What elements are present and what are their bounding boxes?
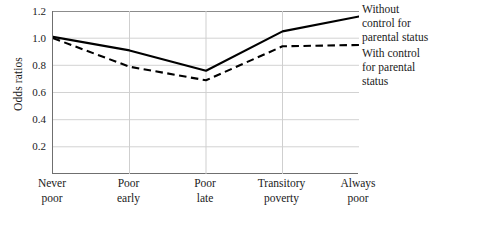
legend-label-line2: for parental <box>362 60 480 74</box>
y-tick-label-0.4: 0.4 <box>20 114 46 125</box>
legend-label-line1: With control <box>362 46 480 60</box>
x-axis-tick-labels: Never poor Poor early Poor late Transito… <box>52 176 358 214</box>
y-tick-label-0.8: 0.8 <box>20 60 46 71</box>
legend: Without control for parental status With… <box>362 0 480 110</box>
figure-odds-ratios: Odds ratios 1.2 1.0 0.8 0.6 0.4 0.2 <box>0 0 480 225</box>
y-axis-tick-labels: 1.2 1.0 0.8 0.6 0.4 0.2 <box>20 0 46 180</box>
legend-label-without-control: Without control for parental status <box>362 2 480 44</box>
y-tick-label-1.0: 1.0 <box>20 33 46 44</box>
x-tick-line1: Poor <box>162 176 248 191</box>
x-tick-line1: Always <box>315 176 401 191</box>
legend-label-line1: Without <box>362 2 480 16</box>
x-tick-label-poor-early: Poor early <box>86 176 172 205</box>
x-tick-line2: poor <box>315 191 401 206</box>
x-tick-line2: early <box>86 191 172 206</box>
legend-label-with-control: With control for parental status <box>362 46 480 88</box>
y-tick-label-0.6: 0.6 <box>20 87 46 98</box>
plot-area <box>52 11 358 174</box>
y-tick-label-0.2: 0.2 <box>20 141 46 152</box>
x-tick-label-transitory-poverty: Transitory poverty <box>239 176 325 205</box>
x-tick-line1: Poor <box>86 176 172 191</box>
figure-caption-clipped <box>52 216 432 225</box>
legend-item-with-control: With control for parental status <box>362 46 480 88</box>
y-tick-label-1.2: 1.2 <box>20 6 46 17</box>
x-tick-line1: Transitory <box>239 176 325 191</box>
x-tick-line2: late <box>162 191 248 206</box>
legend-label-line3: parental status <box>362 30 480 44</box>
legend-item-without-control: Without control for parental status <box>362 2 480 44</box>
plot-svg <box>53 11 359 174</box>
legend-label-line3: status <box>362 74 480 88</box>
x-tick-label-always-poor: Always poor <box>315 176 401 205</box>
x-tick-line2: poor <box>9 191 95 206</box>
x-tick-label-never-poor: Never poor <box>9 176 95 205</box>
x-tick-line1: Never <box>9 176 95 191</box>
x-tick-line2: poverty <box>239 191 325 206</box>
legend-label-line2: control for <box>362 16 480 30</box>
x-tick-label-poor-late: Poor late <box>162 176 248 205</box>
